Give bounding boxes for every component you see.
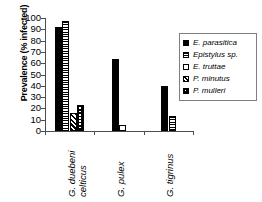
x-tick-label-line: G. duebeni: [66, 151, 77, 197]
y-tick-label: 90: [30, 23, 41, 34]
y-tick-label: 40: [30, 80, 41, 91]
y-tick-label: 50: [30, 69, 41, 80]
y-axis-line: [45, 18, 46, 131]
x-tick-label-line: G. tigrinus: [164, 154, 175, 197]
chart-figure: Prevalence (% infected) 0102030405060708…: [0, 0, 262, 202]
legend-item: Epistylus sp.: [183, 49, 253, 60]
x-tick-mark: [193, 131, 194, 135]
y-tick-mark: [41, 41, 45, 42]
y-tick-mark: [41, 63, 45, 64]
x-tick-label: G. duebenicelticus: [66, 151, 88, 197]
legend-swatch-icon: [183, 64, 189, 70]
y-tick-label: 30: [30, 91, 41, 102]
bar: [62, 21, 69, 131]
bar: [161, 86, 168, 131]
legend-swatch-icon: [183, 88, 189, 94]
legend-swatch-icon: [183, 52, 189, 58]
y-tick-label: 100: [25, 12, 41, 23]
legend-item: E. parasitica: [183, 37, 253, 48]
legend-item-label: P. minutus: [193, 74, 230, 83]
y-tick-label: 10: [30, 114, 41, 125]
y-tick-label: 20: [30, 102, 41, 113]
legend-item-label: E. parasitica: [193, 38, 237, 47]
x-axis-tick-labels: G. duebenicelticusG. pulexG. tigrinus: [45, 133, 193, 199]
bar: [70, 113, 77, 131]
x-tick-label-line: celticus: [77, 151, 88, 197]
legend-item-label: Epistylus sp.: [193, 50, 238, 59]
plot-area: 0102030405060708090100: [45, 18, 193, 131]
legend-item: E. truttae: [183, 61, 253, 72]
legend-swatch-icon: [183, 40, 189, 46]
legend-item-label: P. mulleri: [193, 86, 225, 95]
y-tick-mark: [41, 29, 45, 30]
bar: [112, 59, 119, 131]
y-tick-mark: [41, 18, 45, 19]
x-tick-label: G. pulex: [115, 162, 126, 197]
y-tick-label: 70: [30, 46, 41, 57]
y-tick-label: 60: [30, 57, 41, 68]
chart-legend: E. parasiticaEpistylus sp.E. truttaeP. m…: [179, 33, 257, 101]
legend-item: P. minutus: [183, 73, 253, 84]
y-tick-mark: [41, 75, 45, 76]
y-tick-mark: [41, 52, 45, 53]
y-tick-mark: [41, 97, 45, 98]
y-tick-mark: [41, 86, 45, 87]
y-tick-mark: [41, 108, 45, 109]
y-tick-label: 0: [36, 125, 41, 136]
bar: [77, 105, 84, 131]
x-tick-label: G. tigrinus: [164, 154, 175, 197]
bar: [119, 125, 126, 131]
legend-item: P. mulleri: [183, 85, 253, 96]
bar: [169, 116, 176, 131]
legend-item-label: E. truttae: [193, 62, 225, 71]
y-tick-label: 80: [30, 35, 41, 46]
x-tick-label-line: G. pulex: [115, 162, 126, 197]
x-axis-line: [45, 131, 193, 132]
y-tick-mark: [41, 120, 45, 121]
bar: [55, 27, 62, 131]
legend-swatch-icon: [183, 76, 189, 82]
